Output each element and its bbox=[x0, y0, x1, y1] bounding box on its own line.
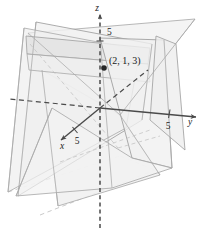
tick-label-x: 5 bbox=[75, 136, 80, 146]
axis-label-y: y bbox=[187, 117, 193, 127]
point-marker-group bbox=[101, 65, 107, 71]
point-marker bbox=[101, 65, 107, 71]
axis-label-x: x bbox=[59, 141, 65, 151]
three-planes-figure: z 5 y 5 x 5 (2, 1, 3) bbox=[0, 0, 207, 236]
tick-label-y: 5 bbox=[166, 121, 171, 131]
point-label: (2, 1, 3) bbox=[109, 55, 141, 67]
tick-label-z: 5 bbox=[107, 27, 112, 37]
figure-canvas: z 5 y 5 x 5 (2, 1, 3) bbox=[0, 0, 207, 236]
axis-label-z: z bbox=[94, 3, 99, 13]
